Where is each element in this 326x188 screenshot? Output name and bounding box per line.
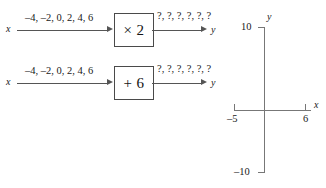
machine-1-operation-label: × 2	[123, 23, 144, 38]
machine-2-output-arrow-line	[152, 83, 203, 84]
x-axis-label: x	[314, 100, 318, 110]
machine-2-output-values: ?, ?, ?, ?, ?, ?	[157, 64, 211, 75]
x-axis-line	[234, 110, 311, 111]
machine-2-input-arrowhead	[107, 79, 113, 85]
y-axis-label: y	[267, 12, 271, 22]
function-machine-figure: x –4, –2, 0, 2, 4, 6 × 2 ?, ?, ?, ?, ?, …	[0, 0, 326, 188]
machine-2-output-arrowhead	[201, 79, 207, 85]
function-machine-row-1: x –4, –2, 0, 2, 4, 6 × 2 ?, ?, ?, ?, ?, …	[0, 0, 215, 56]
machine-2-operation-label: + 6	[123, 76, 144, 91]
machine-2-input-variable: x	[6, 77, 10, 87]
machine-1-input-values: –4, –2, 0, 2, 4, 6	[25, 13, 93, 24]
machine-2-input-arrow-line	[17, 83, 109, 84]
y-axis-tick-label-top: 10	[241, 22, 252, 33]
y-axis-tick-bottom	[258, 172, 264, 173]
x-axis-tick-label-left: –5	[227, 114, 238, 125]
machine-1-input-variable: x	[6, 24, 10, 34]
x-axis-tick-right	[305, 104, 306, 110]
machine-1-output-values: ?, ?, ?, ?, ?, ?	[157, 11, 211, 22]
x-axis-tick-label-right: 6	[303, 114, 308, 125]
machine-2-output-variable: y	[211, 78, 215, 88]
machine-1-input-arrow-line	[17, 30, 109, 31]
coordinate-plane: 10 –10 –5 6 y x	[225, 0, 326, 188]
machine-1-operation-box: × 2	[114, 13, 154, 47]
machine-1-output-arrow-line	[152, 30, 203, 31]
machine-1-input-arrowhead	[107, 26, 113, 32]
function-machine-row-2: x –4, –2, 0, 2, 4, 6 + 6 ?, ?, ?, ?, ?, …	[0, 53, 215, 109]
y-axis-line	[264, 27, 265, 173]
machine-2-operation-box: + 6	[114, 66, 154, 100]
x-axis-tick-left	[234, 104, 235, 110]
machine-1-output-variable: y	[211, 25, 215, 35]
y-axis-tick-label-bottom: –10	[234, 167, 250, 178]
machine-1-output-arrowhead	[201, 26, 207, 32]
y-axis-tick-top	[258, 27, 264, 28]
machine-2-input-values: –4, –2, 0, 2, 4, 6	[25, 66, 93, 77]
